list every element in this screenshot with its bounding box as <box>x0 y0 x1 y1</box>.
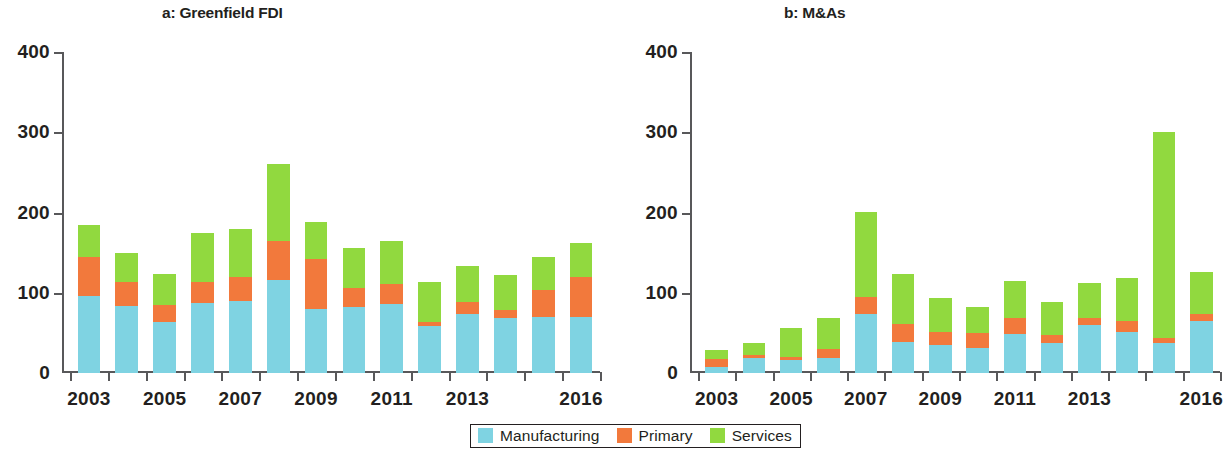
bar-panel-a-2012 <box>418 282 441 373</box>
bar-panel-b-2015 <box>1153 132 1175 373</box>
panel-b-ytick-label-400: 400 <box>645 41 678 63</box>
panel-b-xtick-2010 <box>959 372 961 381</box>
panel-b-xtick-label-2013: 2013 <box>1068 388 1111 410</box>
panel-a-xtick-label-2007: 2007 <box>219 388 262 410</box>
panel-a-xtick-label-2003: 2003 <box>67 388 110 410</box>
bar-segment-manufacturing-2007 <box>229 301 252 373</box>
legend-item-primary: Primary <box>617 427 693 445</box>
panel-b-xtick-label-2007: 2007 <box>844 388 887 410</box>
bar-segment-manufacturing-2015 <box>532 317 555 373</box>
bar-segment-manufacturing-2010 <box>966 348 988 373</box>
bar-segment-services-2014 <box>1116 278 1138 321</box>
bar-segment-primary-2011 <box>1004 318 1026 333</box>
bar-panel-b-2006 <box>817 318 839 373</box>
panel-b-ytick-mark-400 <box>682 52 691 54</box>
bar-panel-a-2004 <box>115 253 138 373</box>
bar-panel-b-2013 <box>1078 283 1100 373</box>
bar-segment-services-2004 <box>115 253 138 283</box>
bar-panel-a-2006 <box>191 233 214 373</box>
bar-panel-a-2016 <box>570 243 593 373</box>
panel-b-xtick-2006 <box>810 372 812 381</box>
chart-panel-mergers-acquisitions: b: M&As 01002003004002003200520072009201… <box>614 0 1228 415</box>
panel-b-xtick-end <box>1220 372 1222 381</box>
panel-a-xtick-label-2011: 2011 <box>371 388 413 410</box>
panel-a-xtick-2016 <box>562 372 564 381</box>
bar-panel-b-2016 <box>1190 272 1212 373</box>
legend-label-services: Services <box>732 427 792 445</box>
bar-segment-manufacturing-2010 <box>343 307 366 373</box>
bar-segment-primary-2006 <box>191 282 214 304</box>
panel-a-xtick-2013 <box>449 372 451 381</box>
bar-segment-services-2010 <box>343 248 366 288</box>
bar-segment-services-2011 <box>380 241 403 284</box>
bar-segment-primary-2004 <box>115 282 138 306</box>
bar-segment-services-2007 <box>229 229 252 277</box>
bar-segment-manufacturing-2003 <box>78 296 101 373</box>
panel-a-ytick-label-0: 0 <box>39 362 50 384</box>
bar-segment-manufacturing-2015 <box>1153 343 1175 373</box>
bar-segment-services-2008 <box>892 274 914 324</box>
bar-segment-services-2013 <box>456 266 479 302</box>
chart-panel-greenfield-fdi: a: Greenfield FDI 0100200300400200320052… <box>0 0 614 415</box>
bar-segment-primary-2013 <box>456 302 479 314</box>
panel-a-ytick-mark-300 <box>54 132 63 134</box>
bar-segment-primary-2012 <box>1041 335 1063 342</box>
panel-b-xtick-label-2003: 2003 <box>695 388 738 410</box>
bar-panel-b-2007 <box>855 212 877 373</box>
bar-panel-a-2008 <box>267 164 290 373</box>
legend-swatch-primary-icon <box>617 428 632 443</box>
chart-legend: ManufacturingPrimaryServices <box>470 424 801 448</box>
bar-panel-b-2004 <box>743 343 765 373</box>
bar-segment-primary-2016 <box>570 277 593 317</box>
bar-segment-services-2008 <box>267 164 290 241</box>
bar-segment-primary-2007 <box>855 297 877 314</box>
panel-b-xtick-2003 <box>698 372 700 381</box>
panel-a-xtick-2012 <box>411 372 413 381</box>
panel-b-title: b: M&As <box>614 4 1228 22</box>
bar-panel-a-2005 <box>153 274 176 373</box>
bar-segment-services-2005 <box>780 328 802 357</box>
bar-segment-services-2006 <box>191 233 214 281</box>
bar-segment-primary-2008 <box>267 241 290 280</box>
panel-a-plot-area: 0100200300400200320052007200920112013201… <box>62 52 600 373</box>
bar-panel-a-2010 <box>343 248 366 373</box>
bar-panel-b-2003 <box>705 350 727 373</box>
panel-b-ytick-mark-100 <box>682 293 691 295</box>
panel-b-xtick-2011 <box>996 372 998 381</box>
bar-segment-primary-2008 <box>892 324 914 342</box>
bar-segment-manufacturing-2013 <box>1078 325 1100 373</box>
bar-segment-primary-2006 <box>817 349 839 358</box>
bar-segment-services-2006 <box>817 318 839 349</box>
panel-a-xtick-2007 <box>221 372 223 381</box>
panel-a-xtick-end <box>600 372 602 381</box>
bar-segment-manufacturing-2009 <box>305 309 328 373</box>
panel-a-ytick-mark-400 <box>54 52 63 54</box>
bar-segment-primary-2005 <box>153 305 176 323</box>
panel-a-ytick-mark-100 <box>54 293 63 295</box>
legend-label-primary: Primary <box>639 427 693 445</box>
panel-a-xtick-2011 <box>373 372 375 381</box>
bar-segment-services-2009 <box>305 222 328 259</box>
bar-segment-primary-2007 <box>229 277 252 301</box>
panel-a-xtick-label-2013: 2013 <box>446 388 489 410</box>
panel-b-ytick-label-300: 300 <box>645 121 678 143</box>
bar-segment-manufacturing-2009 <box>929 345 951 373</box>
panel-b-xtick-2005 <box>773 372 775 381</box>
bar-segment-primary-2014 <box>1116 321 1138 332</box>
legend-item-manufacturing: Manufacturing <box>478 427 600 445</box>
panel-a-ytick-mark-200 <box>54 213 63 215</box>
bar-segment-services-2012 <box>1041 302 1063 336</box>
panel-a-xtick-2005 <box>146 372 148 381</box>
bar-panel-a-2013 <box>456 266 479 373</box>
bar-segment-services-2015 <box>532 257 555 290</box>
bar-segment-manufacturing-2016 <box>1190 321 1212 373</box>
bar-segment-services-2012 <box>418 282 441 323</box>
bar-segment-manufacturing-2014 <box>1116 332 1138 373</box>
bar-panel-b-2014 <box>1116 278 1138 373</box>
panel-b-xtick-2007 <box>847 372 849 381</box>
bar-panel-b-2008 <box>892 274 914 373</box>
bar-segment-primary-2009 <box>929 332 951 345</box>
panel-a-xtick-label-2005: 2005 <box>143 388 186 410</box>
bar-segment-manufacturing-2004 <box>743 358 765 373</box>
legend-swatch-manufacturing-icon <box>478 428 493 443</box>
